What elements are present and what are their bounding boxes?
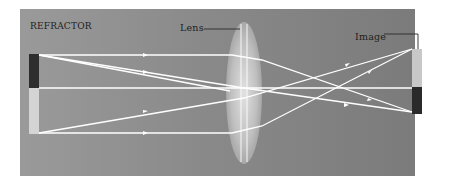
ray-bottom-parallel bbox=[39, 49, 412, 133]
lens-body bbox=[226, 22, 262, 164]
ray-top-chief bbox=[39, 55, 412, 112]
image-label: Image bbox=[355, 31, 386, 42]
image-dark-half bbox=[412, 87, 422, 114]
image-leader-line bbox=[384, 34, 418, 49]
arrow-icon bbox=[143, 53, 148, 57]
ray-bottom-chief bbox=[39, 49, 412, 133]
image bbox=[412, 49, 422, 114]
lens-label: Lens bbox=[180, 22, 204, 33]
light-rays bbox=[39, 49, 412, 133]
arrow-icon bbox=[345, 63, 350, 67]
arrow-icon bbox=[143, 110, 148, 113]
diagram-title: REFRACTOR bbox=[30, 21, 92, 31]
arrow-icon bbox=[143, 131, 148, 135]
arrow-icon bbox=[143, 70, 148, 74]
lens bbox=[226, 22, 262, 164]
image-light-half bbox=[412, 49, 422, 87]
object-light-half bbox=[29, 88, 39, 134]
arrow-icon bbox=[344, 103, 349, 107]
object-dark-half bbox=[29, 54, 39, 88]
ray-top-to-axis bbox=[39, 55, 230, 91]
object bbox=[29, 54, 39, 134]
